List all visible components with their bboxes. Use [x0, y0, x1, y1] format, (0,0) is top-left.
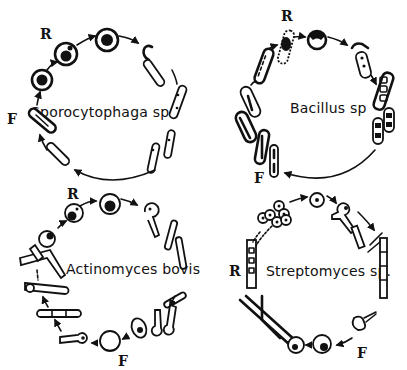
- microcyst-germinating: [55, 43, 77, 65]
- species-label-streptomyces: Streptomyces sp.: [266, 263, 391, 279]
- marker-r-streptomyces: R: [229, 263, 241, 279]
- microcyst-early: [32, 70, 52, 90]
- species-label-sporocytophaga: Sporocytophaga sp.: [31, 104, 174, 120]
- marker-r-actinomyces: R: [67, 186, 79, 202]
- free-spore: [308, 31, 326, 49]
- panel-streptomyces: Streptomyces sp. R F: [229, 193, 391, 361]
- marker-r-sporocytophaga: R: [40, 26, 52, 42]
- life-cycle-diagram: Sporocytophaga sp. R F: [0, 0, 407, 370]
- marker-f-bacillus: F: [254, 170, 264, 186]
- panel-actinomyces: Actinomyces bovis R F: [20, 186, 200, 369]
- marker-f-actinomyces: F: [118, 353, 128, 369]
- panel-bacillus: Bacillus sp R F: [234, 8, 395, 186]
- germinating-spore: [277, 29, 295, 64]
- curved-cell: [144, 46, 152, 60]
- panel-sporocytophaga: Sporocytophaga sp. R F: [7, 26, 188, 180]
- marker-f-streptomyces: F: [357, 345, 367, 361]
- spore-cluster: [258, 201, 291, 227]
- sporangium-remnant: [352, 44, 368, 49]
- marker-r-bacillus: R: [281, 8, 293, 24]
- marker-f-sporocytophaga: F: [7, 111, 17, 127]
- species-label-bacillus: Bacillus sp: [290, 100, 367, 116]
- microcyst-mature: [96, 29, 118, 51]
